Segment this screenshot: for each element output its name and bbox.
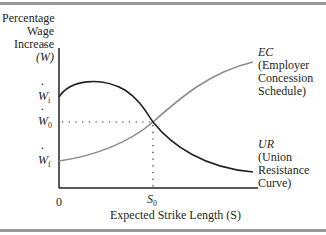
y-axis-label-symbol: (W) (2, 51, 54, 64)
tick-w-i: Wi (38, 89, 50, 105)
origin-label: 0 (56, 195, 62, 210)
ur-desc-line: Curve) (258, 177, 309, 190)
tick-w-f: Wf (38, 153, 51, 169)
ec-desc-line: Schedule) (258, 85, 313, 98)
tick-subscript: f (48, 160, 51, 169)
tick-subscript: 0 (48, 121, 52, 130)
tick-s-0: S0 (147, 192, 157, 208)
w-dot-symbol: W (38, 153, 48, 168)
ec-curve (59, 62, 253, 161)
ec-label: EC (Employer Concession Schedule) (258, 46, 313, 98)
w-dot-symbol: W (40, 51, 50, 64)
tick-w-0: W0 (38, 114, 52, 130)
y-axis-label: Percentage Wage Increase (W) (2, 12, 54, 64)
ur-curve (59, 82, 253, 172)
tick-subscript: i (48, 96, 50, 105)
x-axis-label: Expected Strike Length (S) (110, 208, 241, 223)
w-dot-symbol: W (38, 89, 48, 104)
w-dot-symbol: W (38, 114, 48, 129)
ur-label: UR (Union Resistance Curve) (258, 138, 309, 190)
